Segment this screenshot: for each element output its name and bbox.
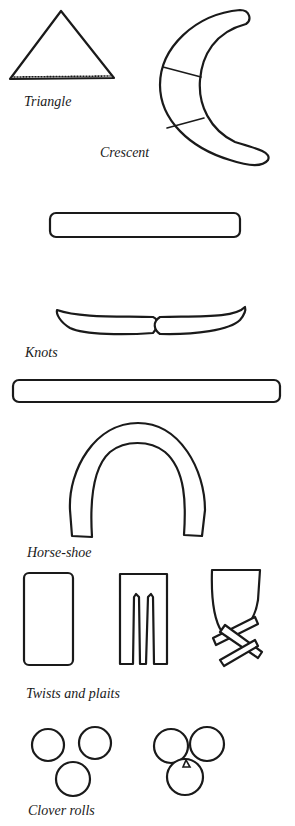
dough-strand-short [50, 213, 240, 237]
label-knots: Knots [25, 345, 58, 361]
clover-rolls-separate [32, 727, 111, 796]
triangle-shape [10, 11, 114, 79]
plait-rectangle-shape [24, 573, 73, 665]
plait-cut-strips-shape [120, 574, 167, 664]
bread-shapes-illustration [0, 0, 295, 826]
label-clover-rolls: Clover rolls [28, 803, 95, 819]
label-crescent: Crescent [100, 145, 149, 161]
label-horseshoe: Horse-shoe [27, 545, 92, 561]
label-twists-and-plaits: Twists and plaits [26, 686, 120, 702]
clover-rolls-joined [154, 727, 224, 795]
crescent-shape [160, 10, 269, 165]
horseshoe-shape [70, 423, 205, 537]
dough-strand-long [13, 380, 280, 402]
plait-braided-shape [212, 570, 262, 666]
label-triangle: Triangle [24, 94, 71, 110]
knot-shape [57, 307, 245, 334]
